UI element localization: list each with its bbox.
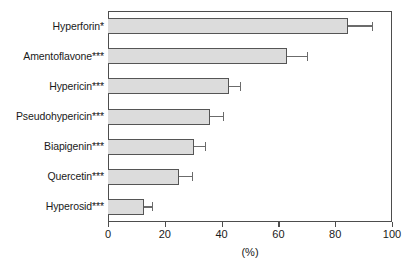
x-tick [392,222,393,227]
category-label: Pseudohypericin*** [0,111,104,122]
bar-chart: Hyperforin*Amentoflavone***Hypericin***P… [0,0,417,271]
bar [108,199,144,215]
category-label: Hyperforin* [0,21,104,32]
error-bar-cap [223,112,224,121]
x-tick [108,222,109,227]
bar [108,109,210,125]
error-bar-line [210,116,223,117]
x-axis-tick-labels: 020406080100 [0,228,417,244]
error-bar-line [348,25,372,26]
error-bar-cap [192,172,193,181]
bars-layer [108,11,392,222]
x-axis-title: (%) [108,246,392,258]
error-bar-cap [372,22,373,31]
bar [108,78,229,94]
error-bar-cap [240,82,241,91]
category-label: Hypericin*** [0,81,104,92]
x-tick [222,222,223,227]
error-bar-line [229,86,240,87]
x-tick [278,222,279,227]
error-bar-line [179,176,192,177]
x-tick-label: 20 [159,228,171,241]
error-bar-line [287,56,307,57]
error-bar-cap [152,202,153,211]
error-bar-line [194,146,205,147]
x-tick-label: 40 [215,228,227,241]
category-label: Quercetin*** [0,171,104,182]
category-label: Biapigenin*** [0,141,104,152]
x-tick-label: 60 [272,228,284,241]
error-bar-cap [205,142,206,151]
category-label: Amentoflavone*** [0,51,104,62]
category-label: Hyperosid*** [0,201,104,212]
x-tick [165,222,166,227]
x-tick-label: 100 [383,228,401,241]
x-tick-label: 0 [105,228,111,241]
bar [108,139,194,155]
error-bar-cap [307,52,308,61]
bar [108,48,287,64]
x-tick [335,222,336,227]
x-tick-label: 80 [329,228,341,241]
error-bar-line [144,206,152,207]
category-axis-labels: Hyperforin*Amentoflavone***Hypericin***P… [0,11,104,222]
bar [108,18,348,34]
bar [108,169,179,185]
